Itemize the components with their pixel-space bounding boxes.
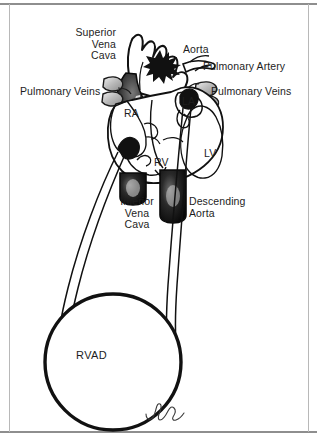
label-aorta: Aorta: [183, 44, 209, 56]
label-rvad-pump: RVAD: [76, 350, 107, 362]
label-left-atrium: LA: [182, 96, 195, 108]
descending-aorta-highlight: [166, 185, 180, 207]
heart-body-group: [108, 87, 223, 183]
label-pulmonary-veins-right: Pulmonary Veins: [211, 86, 291, 98]
label-superior-vena-cava: Superior Vena Cava: [50, 27, 116, 62]
label-right-atrium: RA: [124, 108, 139, 120]
figure-root: Superior Vena Cava Aorta Pulmonary Arter…: [0, 0, 317, 445]
label-descending-aorta: Descending Aorta: [189, 196, 245, 219]
label-right-ventricle: RV: [154, 157, 169, 169]
label-inferior-vena-cava: Inferior Vena Cava: [110, 196, 164, 231]
label-left-ventricle: LV: [204, 148, 216, 160]
label-pulmonary-artery: Pulmonary Artery: [203, 61, 285, 73]
pulmonary-vein-left-upper: [103, 77, 123, 91]
label-pulmonary-veins-left: Pulmonary Veins: [20, 86, 100, 98]
